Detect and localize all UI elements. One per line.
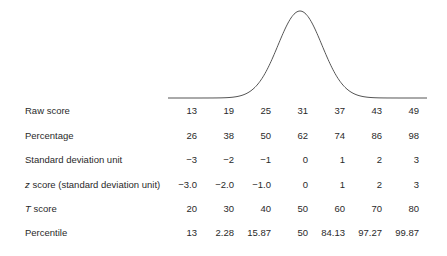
table-cell: −2	[194, 152, 234, 168]
table-cell: 38	[194, 128, 234, 144]
row-label: Percentage	[25, 128, 74, 144]
table-cell: 86	[342, 128, 382, 144]
table-cell: 40	[231, 201, 271, 217]
table-cell: 0	[268, 152, 308, 168]
table-row-standard-deviation-unit: Standard deviation unit −3 −2 −1 0 1 2 3	[0, 152, 447, 168]
table-row-percentile: Percentile 13 2.28 15.87 50 84.13 97.27 …	[0, 225, 447, 241]
table-cell: 31	[268, 103, 308, 119]
row-label-text: score (standard deviation unit)	[30, 179, 160, 190]
table-row-t-score: T score 20 30 40 50 60 70 80	[0, 201, 447, 217]
table-cell: 30	[194, 201, 234, 217]
table-cell: 70	[342, 201, 382, 217]
table-cell: 20	[157, 201, 197, 217]
table-cell: 50	[268, 225, 308, 241]
table-cell: −3.0	[157, 177, 197, 193]
table-cell: 80	[379, 201, 419, 217]
table-cell: 25	[231, 103, 271, 119]
table-cell: 84.13	[305, 225, 345, 241]
row-label: Standard deviation unit	[25, 152, 122, 168]
table-cell: 1	[305, 152, 345, 168]
row-label-text: score	[31, 203, 57, 214]
table-cell: 1	[305, 177, 345, 193]
table-cell: 43	[342, 103, 382, 119]
table-cell: 13	[157, 225, 197, 241]
table-cell: 2	[342, 152, 382, 168]
table-cell: 26	[157, 128, 197, 144]
table-row-z-score: z score (standard deviation unit) −3.0 −…	[0, 177, 447, 193]
table-cell: −1	[231, 152, 271, 168]
table-cell: 19	[194, 103, 234, 119]
table-cell: 2	[342, 177, 382, 193]
table-cell: 2.28	[194, 225, 234, 241]
table-cell: 60	[305, 201, 345, 217]
table-cell: 15.87	[231, 225, 271, 241]
table-cell: 3	[379, 152, 419, 168]
row-label-text: Percentage	[25, 130, 74, 141]
row-label: Percentile	[25, 225, 67, 241]
table-cell: 37	[305, 103, 345, 119]
row-label: z score (standard deviation unit)	[25, 177, 160, 193]
table-cell: 0	[268, 177, 308, 193]
table-cell: −3	[157, 152, 197, 168]
table-cell: 49	[379, 103, 419, 119]
table-cell: 3	[379, 177, 419, 193]
table-cell: −2.0	[194, 177, 234, 193]
table-cell: 50	[268, 201, 308, 217]
row-label: Raw score	[25, 103, 70, 119]
table-cell: 74	[305, 128, 345, 144]
table-row-percentage: Percentage 26 38 50 62 74 86 98	[0, 128, 447, 144]
table-cell: 99.87	[379, 225, 419, 241]
row-label-text: Standard deviation unit	[25, 154, 122, 165]
table-cell: −1.0	[231, 177, 271, 193]
row-label-text: Percentile	[25, 227, 67, 238]
table-cell: 50	[231, 128, 271, 144]
table-cell: 13	[157, 103, 197, 119]
table-row-raw-score: Raw score 13 19 25 31 37 43 49	[0, 103, 447, 119]
table-cell: 98	[379, 128, 419, 144]
row-label: T score	[25, 201, 57, 217]
table-cell: 97.27	[342, 225, 382, 241]
row-label-text: Raw score	[25, 105, 70, 116]
score-conversion-table: Raw score 13 19 25 31 37 43 49 Percentag…	[0, 0, 447, 256]
table-cell: 62	[268, 128, 308, 144]
